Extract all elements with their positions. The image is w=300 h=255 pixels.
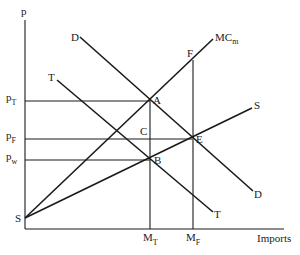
price-label-pF: pF xyxy=(6,129,17,145)
curve-label-D-start: D xyxy=(71,31,79,43)
trade-policy-diagram: p Imports pT pF pw MT MF D D T T MCm S S… xyxy=(0,0,300,255)
curve-label-MCm: MCm xyxy=(215,31,239,46)
price-label-pT: pT xyxy=(6,91,17,107)
curve-label-T-start: T xyxy=(48,71,55,83)
demand-curve-D xyxy=(80,37,253,191)
diagram-svg: p Imports pT pF pw MT MF D D T T MCm S S… xyxy=(0,0,300,255)
point-label-C: C xyxy=(140,125,147,137)
point-label-E: E xyxy=(196,133,203,145)
point-label-F: F xyxy=(187,47,193,59)
curve-label-S: S xyxy=(254,99,260,111)
supply-curve-S xyxy=(25,108,252,218)
point-label-A: A xyxy=(153,94,161,106)
quantity-label-MT: MT xyxy=(143,231,158,247)
curve-label-D-end: D xyxy=(254,188,262,200)
x-axis-label: Imports xyxy=(257,232,291,244)
curve-label-T-end: T xyxy=(214,208,221,220)
curve-T xyxy=(57,80,213,212)
quantity-label-MF: MF xyxy=(186,231,201,247)
marginal-cost-curve-MCm xyxy=(25,39,213,218)
point-label-B: B xyxy=(154,154,161,166)
price-label-pw: pw xyxy=(6,150,18,166)
y-axis-label: p xyxy=(21,5,27,17)
curve-label-S-origin: S xyxy=(15,212,21,224)
